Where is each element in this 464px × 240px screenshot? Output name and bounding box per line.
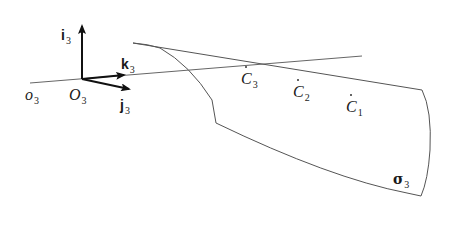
sigma3-label: σ3	[393, 172, 409, 186]
i3-label: i3	[61, 28, 71, 42]
C2-point	[297, 79, 299, 81]
C3-point-label: C3	[241, 71, 258, 87]
surface-sigma3	[133, 43, 430, 196]
k3-label: k3	[121, 57, 135, 71]
k3-vector	[82, 75, 124, 79]
O3-label: O3	[69, 87, 87, 103]
C3-point	[245, 66, 247, 68]
j3-label: j3	[120, 98, 130, 112]
C2-point-label: C2	[293, 84, 310, 100]
axis-line	[30, 56, 362, 83]
o3-label: o3	[25, 87, 39, 103]
C1-point-label: C1	[346, 99, 363, 115]
C1-point	[350, 94, 352, 96]
j3-vector	[82, 79, 129, 89]
